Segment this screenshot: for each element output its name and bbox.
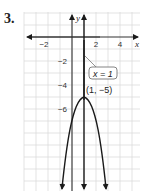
x-tick-label: −2 — [39, 40, 49, 49]
y-tick-label: −4 — [58, 81, 68, 90]
axis-of-symmetry-callout: x = 1 — [85, 56, 117, 79]
y-tick-label: −6 — [58, 105, 68, 114]
callout-label: x = 1 — [92, 69, 113, 79]
x-axis-label: x — [134, 39, 139, 49]
graph: −2 2 4 x y −2 −4 −6 x = 1 (1, −5) — [0, 0, 147, 191]
vertex-label: (1, −5) — [86, 85, 112, 95]
x-tick-label: 2 — [94, 40, 99, 49]
y-axis-label: y — [75, 13, 80, 23]
y-tick-label: −2 — [58, 57, 68, 66]
x-tick-label: 4 — [118, 40, 123, 49]
grid — [24, 12, 140, 191]
